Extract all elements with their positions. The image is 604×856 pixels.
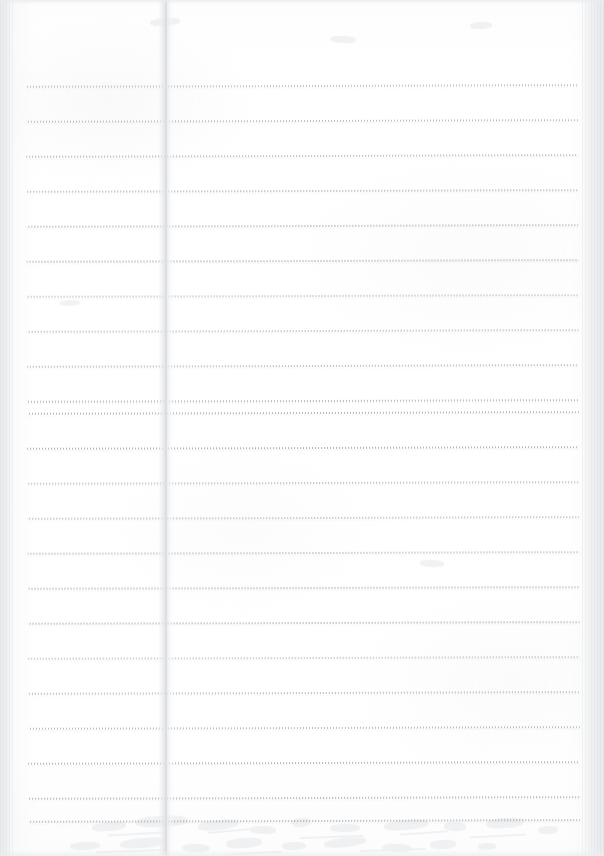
scanned-notebook-page xyxy=(0,0,604,856)
paper-surface xyxy=(0,0,604,856)
